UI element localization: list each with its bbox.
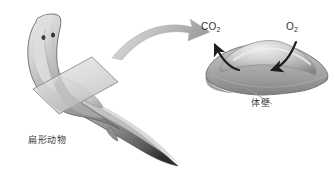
- label-body-wall: 体壁: [251, 99, 270, 108]
- label-flatworm: 扁形动物: [28, 136, 66, 145]
- o2-formula-main: O: [286, 21, 294, 32]
- co2-formula-subscript: 2: [216, 26, 220, 33]
- cross-section-view: [206, 41, 328, 105]
- figure-illustration: [0, 0, 335, 182]
- magnify-arrow: [112, 19, 210, 60]
- o2-formula-subscript: 2: [294, 26, 298, 33]
- eyespot-left: [42, 35, 46, 40]
- label-co2: CO2: [201, 22, 221, 32]
- co2-formula-main: CO: [201, 21, 216, 32]
- label-o2: O2: [286, 22, 298, 32]
- figure-root: 扁形动物 CO2 O2 体壁: [0, 0, 335, 182]
- eyespot-right: [51, 32, 55, 37]
